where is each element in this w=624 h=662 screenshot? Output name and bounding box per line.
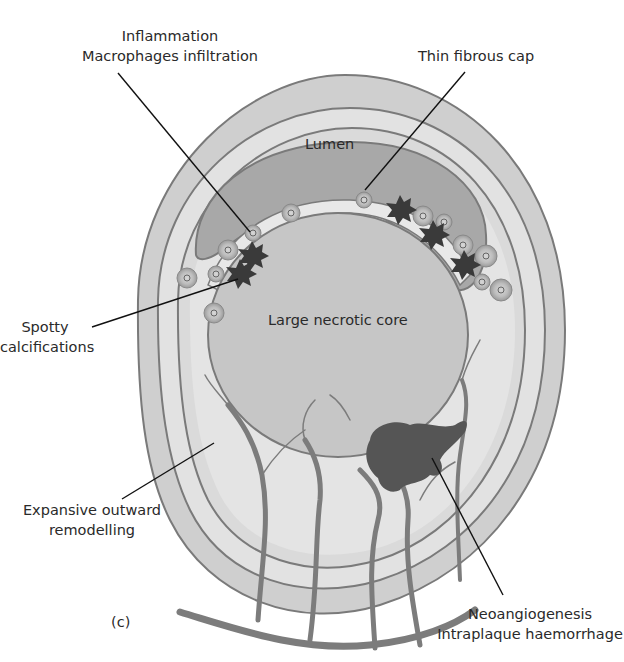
- macrophage-cell: [218, 240, 238, 260]
- label-expansive-remodelling: Expansive outward remodelling: [12, 500, 172, 540]
- label-lumen: Lumen: [305, 134, 354, 154]
- label-neoangiogenesis-line1: Neoangiogenesis: [425, 604, 624, 624]
- label-spotty-line1: Spotty: [0, 317, 90, 337]
- macrophage-cell: [413, 206, 433, 226]
- label-neoangiogenesis: Neoangiogenesis Intraplaque haemorrhage: [425, 604, 624, 644]
- label-expansive-line2: remodelling: [12, 520, 172, 540]
- macrophage-cell: [177, 268, 197, 288]
- label-inflammation-line2: Macrophages infiltration: [65, 46, 275, 66]
- macrophage-cell: [356, 192, 372, 208]
- necrotic-core: [208, 213, 468, 457]
- panel-label: (c): [111, 612, 130, 632]
- label-inflammation: Inflammation Macrophages infiltration: [65, 26, 275, 66]
- macrophage-cell: [208, 266, 224, 282]
- label-spotty-calcifications: Spotty calcifications: [0, 317, 90, 357]
- label-large-necrotic-core: Large necrotic core: [268, 310, 408, 330]
- label-inflammation-line1: Inflammation: [65, 26, 275, 46]
- label-neoangiogenesis-line2: Intraplaque haemorrhage: [425, 624, 624, 644]
- plaque-diagram: [0, 0, 624, 662]
- macrophage-cell: [490, 279, 512, 301]
- macrophage-cell: [204, 303, 224, 323]
- label-spotty-line2: calcifications: [0, 337, 90, 357]
- macrophage-cell: [282, 204, 300, 222]
- macrophage-cell: [245, 225, 261, 241]
- label-expansive-line1: Expansive outward: [12, 500, 172, 520]
- macrophage-cell: [453, 235, 473, 255]
- macrophage-cell: [474, 274, 490, 290]
- label-thin-fibrous-cap: Thin fibrous cap: [418, 46, 534, 66]
